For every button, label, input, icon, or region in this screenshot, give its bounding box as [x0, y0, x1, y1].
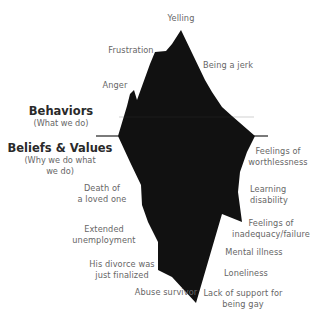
label-feelings-inadequacy: Feelings of inadequacy/failure — [232, 218, 310, 240]
label-yelling: Yelling — [168, 13, 195, 24]
label-death-of-loved-one: Death of a loved one — [78, 183, 127, 205]
label-divorce: His divorce was just finalized — [89, 259, 154, 281]
label-being-a-jerk: Being a jerk — [203, 60, 253, 71]
subheading-behaviors: (What we do) — [33, 118, 88, 129]
heading-beliefs-values: Beliefs & Values — [8, 141, 113, 155]
subheading-beliefs-line1: (Why we do what — [24, 155, 95, 166]
label-loneliness: Loneliness — [224, 268, 268, 279]
label-lack-of-support: Lack of support for being gay — [203, 288, 282, 310]
label-mental-illness: Mental illness — [225, 247, 282, 258]
label-frustration: Frustration — [108, 45, 153, 56]
label-anger: Anger — [103, 80, 128, 91]
label-abuse-survivor: Abuse survivor — [135, 287, 197, 298]
subheading-beliefs-line2: we do) — [46, 166, 74, 177]
iceberg-diagram: Yelling Frustration Being a jerk Anger B… — [0, 0, 331, 321]
label-learning-disability: Learning disability — [250, 184, 288, 206]
heading-behaviors: Behaviors — [29, 104, 93, 118]
label-extended-unemployment: Extended unemployment — [72, 224, 135, 246]
label-feelings-worthlessness: Feelings of worthlessness — [248, 146, 307, 168]
